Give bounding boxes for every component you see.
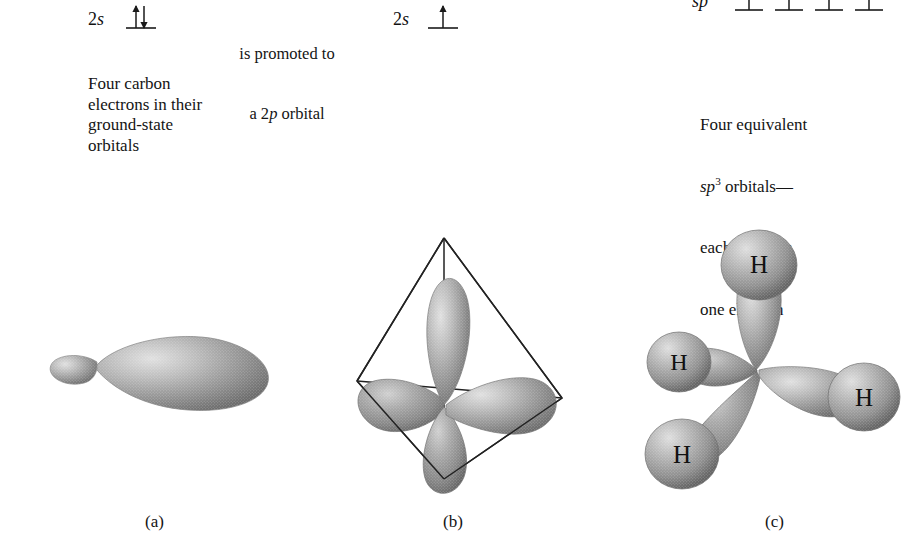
hybrid-electron-arrows xyxy=(732,0,912,20)
excited-state-orbital-diagram: 2s xyxy=(393,2,483,36)
panel-b-caption: (b) xyxy=(443,512,463,532)
panel-a-single-sp3-orbital xyxy=(40,330,290,460)
panel-c-caption: (c) xyxy=(765,512,784,532)
hybrid-desc-line-2: sp3 orbitals— xyxy=(700,177,807,198)
excited-state-electron-arrow xyxy=(425,2,465,36)
hydrogen-label-lower-left: H xyxy=(673,441,691,468)
hybrid-orbital-diagram: sp3 xyxy=(692,0,912,20)
hybrid-orbital-label: sp3 xyxy=(692,0,714,12)
hydrogen-label-right: H xyxy=(855,384,873,411)
promotion-line-1: is promoted to xyxy=(198,44,376,64)
hydrogen-atom-top: H xyxy=(721,230,797,300)
sp3-lobe-front-right xyxy=(446,378,556,434)
sp3-orbital-small-lobe xyxy=(50,356,97,385)
promotion-line-2: a 2p orbital xyxy=(198,104,376,124)
hydrogen-label-top: H xyxy=(750,251,768,278)
hydrogen-label-left: H xyxy=(670,349,687,375)
sp3-lobe-top xyxy=(427,278,470,405)
hybrid-desc-line-1: Four equivalent xyxy=(700,115,807,136)
excited-state-orbital-label: 2s xyxy=(393,9,409,30)
ground-state-orbital-diagram: 2s xyxy=(88,2,178,36)
sp3-orbital-large-lobe xyxy=(97,336,268,410)
panel-c-methane-molecule: H H H H xyxy=(620,220,915,505)
sp3-hybridization-figure: 2s is promoted to a 2p orbital 2s xyxy=(0,0,923,556)
ground-state-description: Four carbon electrons in their ground-st… xyxy=(88,74,202,156)
hydrogen-atom-lower-left: H xyxy=(645,419,719,489)
ground-state-electron-arrows xyxy=(122,2,162,36)
panel-a-caption: (a) xyxy=(145,512,164,532)
ground-state-orbital-label: 2s xyxy=(88,9,104,30)
hydrogen-atom-left: H xyxy=(647,332,711,392)
promotion-annotation: is promoted to a 2p orbital xyxy=(198,4,376,164)
hydrogen-atom-right: H xyxy=(828,363,900,431)
panel-b-tetrahedral-sp3-orbitals xyxy=(330,225,590,500)
